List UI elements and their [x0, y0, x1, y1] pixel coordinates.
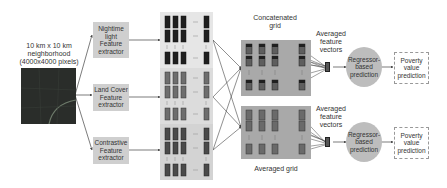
extractor-text: Contrastive	[95, 139, 128, 147]
vector-label-line: feature	[312, 38, 350, 46]
output-text: prediction	[397, 147, 425, 155]
vector-label-line: Averaged	[312, 30, 350, 38]
regressor-bottom: Regressor- based prediction	[346, 122, 382, 162]
concatenated-grid-label: Concatenated grid	[240, 14, 310, 30]
extractor-text: Feature	[95, 147, 128, 155]
output-text: Poverty	[397, 132, 425, 140]
regressor-text: based	[348, 63, 380, 71]
contrastive-extractor: Contrastive Feature extractor	[93, 137, 129, 164]
avg-vectors-label-top: Averaged feature vectors	[312, 30, 350, 54]
input-label-line: 10 km x 10 km	[18, 42, 80, 50]
poverty-output-bottom: Poverty value prediction	[394, 127, 429, 159]
extractor-text: extractor	[94, 101, 128, 109]
output-text: Poverty	[397, 57, 425, 65]
feature-vector-top	[325, 62, 330, 72]
input-label: 10 km x 10 km neighborhood (4000x4000 pi…	[18, 42, 80, 66]
feature-vector-bottom	[325, 137, 330, 147]
extractor-text: Nightime	[98, 25, 124, 33]
output-text: prediction	[397, 72, 425, 80]
averaged-grid-label: Averaged grid	[241, 165, 311, 173]
landcover-extractor: Land Cover Feature extractor	[93, 84, 129, 111]
input-label-line: neighborhood	[18, 50, 80, 58]
vector-label-line: feature	[312, 113, 350, 121]
extractor-text: Feature	[94, 94, 128, 102]
averaged-grid-cells	[241, 106, 311, 159]
averaged-grid	[241, 106, 311, 159]
regressor-text: Regressor-	[348, 56, 380, 64]
grid-label-line: grid	[240, 22, 310, 30]
input-label-line: (4000x4000 pixels)	[18, 58, 80, 66]
regressor-text: prediction	[348, 146, 380, 154]
regressor-text: Regressor-	[348, 131, 380, 139]
extractor-text: extractor	[95, 154, 128, 162]
regressor-text: prediction	[348, 71, 380, 79]
avg-vectors-label-bottom: Averaged feature vectors	[312, 105, 350, 129]
satellite-image	[21, 68, 76, 124]
grid-label-line: Concatenated	[240, 14, 310, 22]
regressor-top: Regressor- based prediction	[346, 47, 382, 87]
output-text: value	[397, 64, 425, 72]
extractor-text: extractor	[98, 48, 124, 56]
extractor-text: Feature	[98, 40, 124, 48]
output-text: value	[397, 139, 425, 147]
nightlight-extractor: Nightime light Feature extractor	[93, 22, 129, 58]
extractor-text: light	[98, 33, 124, 41]
feature-cells	[160, 12, 213, 180]
concatenated-grid	[241, 40, 311, 96]
poverty-output-top: Poverty value prediction	[394, 52, 429, 84]
feature-stack	[160, 12, 213, 180]
vector-label-line: vectors	[312, 121, 350, 129]
vector-label-line: Averaged	[312, 105, 350, 113]
satellite-texture	[21, 68, 76, 124]
vector-label-line: vectors	[312, 46, 350, 54]
concatenated-grid-cells	[241, 40, 311, 96]
regressor-text: based	[348, 138, 380, 146]
extractor-text: Land Cover	[94, 86, 128, 94]
